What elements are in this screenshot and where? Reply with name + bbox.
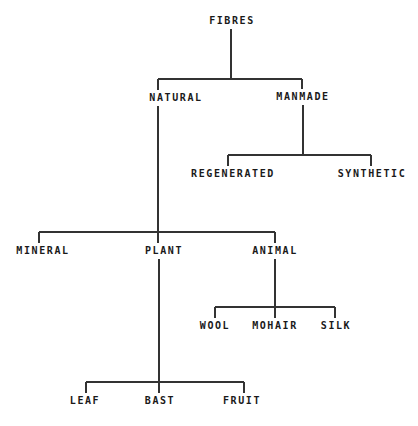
- node-bast: BAST: [145, 396, 175, 406]
- node-plant: PLANT: [145, 246, 183, 256]
- node-fruit: FRUIT: [223, 396, 261, 406]
- connector-lines: [0, 0, 418, 426]
- node-wool: WOOL: [200, 321, 230, 331]
- node-natural: NATURAL: [149, 93, 202, 103]
- node-regenerated: REGENERATED: [191, 169, 275, 179]
- fibres-classification-diagram: FIBRES NATURAL MANMADE REGENERATED SYNTH…: [0, 0, 418, 426]
- node-mineral: MINERAL: [16, 246, 69, 256]
- node-synthetic: SYNTHETIC: [338, 169, 407, 179]
- node-mohair: MOHAIR: [252, 321, 298, 331]
- node-leaf: LEAF: [70, 396, 100, 406]
- node-manmade: MANMADE: [276, 92, 329, 102]
- node-animal: ANIMAL: [252, 246, 298, 256]
- node-silk: SILK: [321, 321, 351, 331]
- node-fibres: FIBRES: [209, 16, 255, 26]
